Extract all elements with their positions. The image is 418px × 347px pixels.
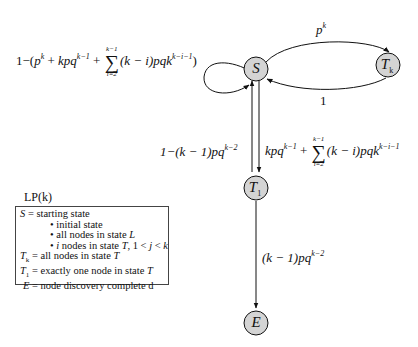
self-loop-kpq: kpq (58, 53, 77, 68)
legend-italic: T (147, 265, 153, 276)
edge-Tk-to-S (267, 78, 386, 89)
node-T1-subscript: 1 (257, 189, 261, 198)
edge-S-to-Tk (266, 42, 389, 62)
sigma-glyph: ∑ (105, 53, 119, 71)
legend-text: , 1 < (127, 240, 149, 251)
legend-text: = exactly one node in state (29, 265, 147, 276)
self-loop-pqk: pqk (153, 53, 172, 68)
S-to-T1-kpq: kpq (265, 143, 284, 158)
legend-text: = all nodes in state (29, 250, 113, 261)
edge-Tk-to-S-label: 1 (320, 94, 327, 107)
self-loop-pqk-exp: k−i−1 (172, 52, 193, 61)
node-Tk-subscript: k (389, 66, 393, 75)
edge-T1-to-E-label: (k − 1)pqk−2 (262, 250, 324, 264)
T1-to-E-exp: k−2 (311, 249, 324, 258)
S-to-T1-kpq-exp: k−1 (284, 142, 297, 151)
legend-text: • all nodes in state (50, 229, 129, 240)
self-loop-plus1: + (44, 53, 58, 68)
node-Tk-text: T (381, 56, 389, 72)
legend-title: LP(k) (24, 190, 52, 205)
self-loop-kpq-exp: k−1 (77, 52, 90, 61)
legend-box: S = starting state • initial state • all… (15, 206, 169, 285)
legend-italic: L (129, 229, 135, 240)
S-to-Tk-exp: k (323, 21, 327, 30)
self-loop-S-label: 1−(pk + kpqk−1 + k−1∑i=2(k − i)pqkk−i−1) (16, 46, 197, 78)
S-to-T1-term: (k − i) (327, 143, 360, 158)
legend-italic: k (163, 240, 168, 251)
S-to-T1-pqk: pqk (360, 143, 379, 158)
legend-text: = starting state (25, 208, 90, 219)
summation-icon: k−1∑i=2 (312, 136, 326, 168)
T1-to-E-pq: pq (298, 250, 311, 265)
self-loop-suffix: ) (193, 53, 197, 68)
S-to-T1-plus: + (297, 143, 311, 158)
legend-text: < (152, 240, 163, 251)
legend-text: nodes in state (59, 240, 121, 251)
sum-lower: i=2 (107, 71, 117, 78)
edge-S-to-Tk-label: pk (316, 22, 326, 36)
edge-T1-to-S-label: 1−(k − 1)pqk−2 (160, 144, 237, 158)
sigma-glyph: ∑ (312, 143, 326, 161)
S-to-T1-pqk-exp: k−i−1 (379, 142, 400, 151)
self-loop-term: (k − i) (120, 53, 153, 68)
legend-italic: T (113, 250, 119, 261)
self-loop-plus2: + (90, 53, 104, 68)
node-T1-text: T (249, 179, 257, 195)
node-T1-label: T1 (240, 180, 270, 198)
T1-to-E-prefix: (k − 1) (262, 250, 298, 265)
legend-line-T1: T1 = exactly one node in state T (20, 266, 164, 281)
T1-to-S-pq: pq (211, 144, 224, 159)
node-S-text: S (252, 60, 260, 76)
node-Tk-label: Tk (372, 57, 402, 75)
node-S-label: S (241, 61, 271, 76)
legend-line-Tk: Tk = all nodes in state T (20, 251, 164, 266)
Tk-to-S-text: 1 (320, 93, 327, 108)
edge-S-to-T1-label: kpqk−1 + k−1∑i=2(k − i)pqkk−i−1 (265, 136, 400, 168)
summation-icon: k−1∑i=2 (105, 46, 119, 78)
T1-to-S-prefix: 1−(k − 1) (160, 144, 211, 159)
node-E-label: E (241, 315, 271, 330)
node-E-text: E (251, 314, 260, 330)
sum-lower: i=2 (314, 161, 324, 168)
self-loop-prefix: 1−( (16, 53, 34, 68)
T1-to-S-exp: k−2 (224, 143, 237, 152)
legend-text: = node discovery complete d (29, 280, 153, 291)
legend-line-E: E = node discovery complete d (20, 281, 164, 292)
legend-text: • initial state (50, 219, 103, 230)
